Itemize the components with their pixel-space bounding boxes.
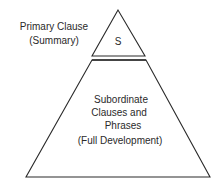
subordinate-label-line4: (Full Development) [78,135,162,146]
pyramid-diagram: S Primary Clause (Summary) Subordinate C… [0,0,219,189]
primary-clause-triangle: S [92,10,145,56]
primary-clause-symbol: S [115,36,122,47]
primary-clause-label: Primary Clause (Summary) [20,21,89,46]
primary-clause-label-line1: Primary Clause [20,21,89,32]
primary-clause-label-line2: (Summary) [29,35,78,46]
subordinate-label-line2: Clauses and [91,107,147,118]
subordinate-label-line1: Subordinate [94,94,148,105]
subordinate-clauses-trapezoid: Subordinate Clauses and Phrases (Full De… [26,60,210,177]
subordinate-label-line3: Phrases [105,120,142,131]
